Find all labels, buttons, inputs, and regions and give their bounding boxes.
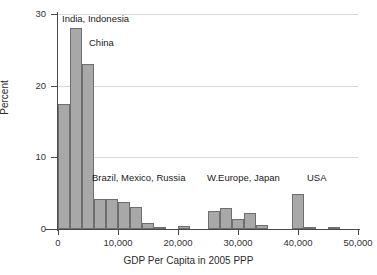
histogram-bar bbox=[232, 219, 244, 229]
x-tick-mark bbox=[298, 230, 299, 235]
chart-annotation: Brazil, Mexico, Russia bbox=[92, 173, 185, 183]
x-axis-line bbox=[45, 229, 360, 230]
histogram-bar bbox=[292, 194, 304, 229]
y-axis-line bbox=[57, 12, 58, 231]
histogram-bar bbox=[130, 207, 142, 229]
y-tick-label: 30 bbox=[35, 9, 46, 19]
histogram-bar bbox=[118, 202, 130, 229]
x-tick-mark bbox=[118, 230, 119, 235]
x-tick-label: 10,000 bbox=[103, 238, 132, 248]
histogram-bar bbox=[244, 213, 256, 229]
gridline-10 bbox=[58, 157, 358, 158]
y-axis-title: Percent bbox=[0, 68, 10, 128]
histogram-bar bbox=[220, 208, 232, 229]
y-tick-mark bbox=[51, 14, 57, 15]
histogram-bar bbox=[208, 211, 220, 229]
x-axis-title: GDP Per Capita in 2005 PPP bbox=[0, 255, 377, 266]
histogram-bar bbox=[58, 104, 70, 229]
histogram-bar bbox=[82, 64, 94, 229]
chart-annotation: USA bbox=[307, 173, 327, 183]
x-tick-label: 50,000 bbox=[343, 238, 372, 248]
x-tick-mark bbox=[238, 230, 239, 235]
y-tick-label: 10 bbox=[35, 152, 46, 162]
y-tick-label: 0 bbox=[41, 224, 46, 234]
gridline-20 bbox=[58, 86, 358, 87]
y-tick-mark bbox=[51, 86, 57, 87]
y-tick-label: 20 bbox=[35, 81, 46, 91]
y-tick-mark bbox=[51, 229, 57, 230]
x-tick-label: 40,000 bbox=[283, 238, 312, 248]
histogram-bar bbox=[106, 199, 118, 229]
chart-annotation: China bbox=[89, 38, 114, 48]
x-tick-mark bbox=[58, 230, 59, 235]
x-tick-label: 0 bbox=[55, 238, 60, 248]
x-tick-label: 20,000 bbox=[163, 238, 192, 248]
y-tick-mark bbox=[51, 157, 57, 158]
histogram-bar bbox=[94, 199, 106, 229]
x-tick-label: 30,000 bbox=[223, 238, 252, 248]
chart-annotation: W.Europe, Japan bbox=[207, 173, 280, 183]
chart-annotation: India, Indonesia bbox=[62, 14, 129, 24]
histogram-bar bbox=[70, 28, 82, 229]
histogram-chart: 0102030 010,00020,00030,00040,00050,000 … bbox=[0, 0, 377, 275]
x-tick-mark bbox=[178, 230, 179, 235]
x-tick-mark bbox=[358, 230, 359, 235]
